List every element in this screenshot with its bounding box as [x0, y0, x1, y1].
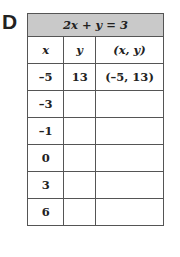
cell-xy[interactable] [96, 91, 164, 118]
cell-xy[interactable] [96, 172, 164, 199]
column-header-y: y [64, 37, 96, 64]
equation-title: 2x + y = 3 [28, 14, 164, 37]
problem-label: D [2, 11, 17, 32]
cell-xy[interactable]: (–5, 13) [96, 64, 164, 91]
cell-x: –1 [28, 118, 64, 145]
function-table: 2x + y = 3 x y (x, y) –5 13 (–5, 13) –3 … [27, 13, 164, 226]
cell-xy[interactable] [96, 145, 164, 172]
table-row: 0 [28, 145, 164, 172]
column-header-x: x [28, 37, 64, 64]
cell-x: –5 [28, 64, 64, 91]
table-row: –5 13 (–5, 13) [28, 64, 164, 91]
cell-xy[interactable] [96, 199, 164, 226]
column-header-xy: (x, y) [96, 37, 164, 64]
cell-x: 0 [28, 145, 64, 172]
cell-y[interactable] [64, 172, 96, 199]
cell-y[interactable] [64, 91, 96, 118]
table-row: 3 [28, 172, 164, 199]
cell-y[interactable] [64, 199, 96, 226]
cell-y[interactable] [64, 145, 96, 172]
cell-y[interactable] [64, 118, 96, 145]
cell-x: 3 [28, 172, 64, 199]
table-row: –3 [28, 91, 164, 118]
cell-xy[interactable] [96, 118, 164, 145]
table-row: –1 [28, 118, 164, 145]
cell-x: 6 [28, 199, 64, 226]
cell-x: –3 [28, 91, 64, 118]
table-row: 6 [28, 199, 164, 226]
cell-y[interactable]: 13 [64, 64, 96, 91]
